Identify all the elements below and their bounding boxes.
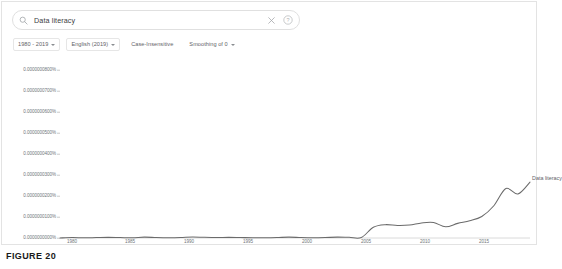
help-circle-icon[interactable]: ? [283, 15, 293, 25]
x-axis-tick: 2000 [302, 240, 312, 245]
x-axis: 1980 1985 1990 1995 2000 2005 2010 2015 [2, 238, 538, 250]
corpus-selector[interactable]: English (2019) [66, 38, 120, 51]
year-range-label: 1980 - 2019 [18, 42, 48, 48]
ngram-chart: 0.0000000800% 0.0000000700% 0.0000000600… [2, 60, 538, 246]
series-legend-label: Data literacy [532, 176, 562, 181]
chevron-down-icon [51, 44, 55, 46]
x-axis-tick: 1990 [184, 240, 194, 245]
chart-plot-svg [2, 60, 538, 246]
case-insensitive-label: Case-Insensitive [131, 42, 173, 48]
case-insensitive-toggle[interactable]: Case-Insensitive [126, 38, 178, 51]
chevron-down-icon [111, 44, 115, 46]
x-axis-tick: 2010 [420, 240, 430, 245]
chevron-down-icon [231, 44, 235, 46]
x-axis-tick: 2005 [361, 240, 371, 245]
smoothing-selector[interactable]: Smoothing of 0 [184, 38, 239, 51]
x-axis-tick: 1995 [243, 240, 253, 245]
figure-caption: FIGURE 20 [6, 252, 56, 261]
search-bar[interactable]: Data literacy ? [12, 10, 300, 30]
series-line-data-literacy [60, 182, 530, 238]
x-axis-tick: 1980 [67, 240, 77, 245]
ngram-options-row: 1980 - 2019 English (2019) Case-Insensit… [13, 38, 246, 51]
smoothing-label: Smoothing of 0 [189, 42, 227, 48]
search-icon [19, 16, 28, 25]
ngram-viewer-card: Data literacy ? 1980 - 2019 Eng [1, 1, 537, 245]
x-axis-tick: 1985 [125, 240, 135, 245]
close-icon[interactable] [267, 16, 276, 25]
x-axis-tick: 2015 [479, 240, 489, 245]
year-range-selector[interactable]: 1980 - 2019 [13, 38, 60, 51]
corpus-label: English (2019) [71, 42, 108, 48]
svg-text:?: ? [286, 17, 289, 23]
search-input[interactable]: Data literacy [34, 16, 267, 25]
